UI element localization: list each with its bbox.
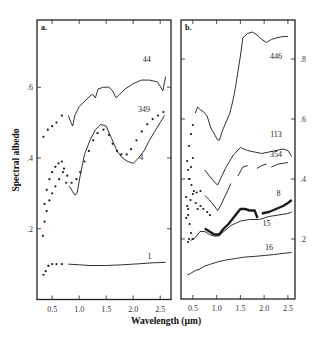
series-line: [187, 253, 292, 276]
series-line: [69, 116, 164, 196]
spectral-albedo-figure: 0.51.01.52.02.5.2.4.6a.44349410.51.01.52…: [0, 0, 323, 340]
data-point: [51, 263, 53, 265]
series-line-segment: [238, 166, 248, 177]
series-line: [68, 77, 165, 127]
series-1: 1: [42, 252, 165, 276]
series-8: 8: [205, 189, 292, 235]
series-16: 16: [187, 243, 292, 276]
series-line-segment: [271, 163, 288, 168]
data-point: [130, 148, 132, 150]
y-tick-label: .4: [300, 175, 306, 184]
data-point: [187, 241, 189, 243]
x-tick-label: 2.0: [128, 305, 138, 314]
data-point: [61, 114, 63, 116]
y-tick-label: .4: [27, 154, 33, 163]
data-point: [192, 238, 194, 240]
data-point: [48, 199, 50, 201]
y-tick-label: .6: [27, 83, 33, 92]
data-point: [162, 111, 164, 113]
data-point: [58, 162, 60, 164]
data-point: [190, 133, 192, 135]
data-point: [70, 182, 72, 184]
panel-label: a.: [41, 23, 47, 32]
data-point: [197, 208, 199, 210]
y-tick-label: .2: [27, 225, 33, 234]
series-line: [68, 262, 165, 265]
data-point: [61, 160, 63, 162]
data-point: [157, 114, 159, 116]
data-point: [195, 202, 197, 204]
data-point: [46, 210, 48, 212]
data-point: [199, 190, 201, 192]
series-label: 4: [139, 153, 143, 162]
data-point: [43, 221, 45, 223]
x-axis-title: Wavelength (µm): [131, 316, 201, 327]
panel-a: 0.51.01.52.02.5.2.4.6a.4434941: [27, 20, 171, 314]
data-point: [51, 125, 53, 127]
data-point: [202, 208, 204, 210]
y-tick-label: .2: [300, 235, 306, 244]
data-point: [188, 238, 190, 240]
series-line: [262, 200, 292, 214]
x-tick-label: 0.5: [188, 304, 198, 313]
data-point: [152, 118, 154, 120]
data-point: [102, 129, 104, 131]
data-point: [190, 232, 192, 234]
data-point: [185, 196, 187, 198]
data-point: [209, 214, 211, 216]
panel-b: 0.51.01.52.02.5.2.4.6.8b.44611335481516: [181, 20, 306, 313]
data-point: [83, 160, 85, 162]
data-point: [42, 274, 44, 276]
data-point: [65, 182, 67, 184]
series-line-segment: [205, 184, 231, 211]
data-point: [55, 122, 57, 124]
data-point: [47, 265, 49, 267]
data-point: [192, 193, 194, 195]
data-point: [96, 132, 98, 134]
data-point: [193, 190, 195, 192]
series-label: 349: [138, 105, 150, 114]
data-point: [186, 205, 188, 207]
y-tick-label: .8: [300, 55, 306, 64]
x-tick-label: 1.5: [101, 305, 111, 314]
data-point: [61, 263, 63, 265]
data-point: [47, 129, 49, 131]
data-point: [63, 167, 65, 169]
data-point: [196, 191, 198, 193]
data-point: [45, 270, 47, 272]
x-tick-label: 2.5: [283, 304, 293, 313]
data-point: [48, 178, 50, 180]
series-label: 15: [263, 219, 271, 228]
data-point: [190, 184, 192, 186]
series-line: [195, 32, 288, 140]
x-tick-label: 2.5: [155, 305, 165, 314]
series-label: 446: [270, 52, 282, 61]
data-point: [92, 139, 94, 141]
data-point: [51, 171, 53, 173]
y-axis-title: Spectral albedo: [11, 128, 21, 191]
data-point: [187, 208, 189, 210]
data-point: [75, 178, 77, 180]
data-point: [62, 171, 64, 173]
x-tick-label: 1.0: [212, 304, 222, 313]
series-label: 8: [276, 189, 280, 198]
data-point: [192, 157, 194, 159]
series-349: 349: [43, 105, 164, 205]
data-point: [51, 192, 53, 194]
data-point: [188, 178, 190, 180]
x-tick-label: 1.5: [235, 304, 245, 313]
data-point: [54, 185, 56, 187]
x-tick-label: 2.0: [259, 304, 269, 313]
data-point: [190, 166, 192, 168]
y-tick-label: .6: [300, 115, 306, 124]
data-point: [88, 150, 90, 152]
data-point: [141, 130, 143, 132]
data-point: [186, 160, 188, 162]
data-point: [199, 205, 201, 207]
data-point: [187, 169, 189, 171]
x-tick-label: 0.5: [47, 305, 57, 314]
series-label: 1: [147, 252, 151, 261]
data-point: [126, 153, 128, 155]
data-point: [188, 223, 190, 225]
data-point: [188, 145, 190, 147]
